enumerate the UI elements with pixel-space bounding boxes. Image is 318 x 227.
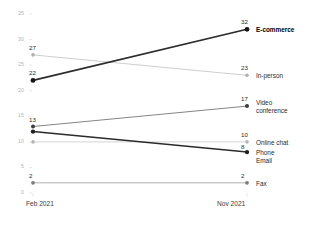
y-tick-marks: [29, 14, 32, 193]
series-label-online-chat: Online chat: [256, 139, 288, 147]
y-tick-label-0: 0: [10, 190, 24, 195]
y-tick-label-25: 25: [10, 62, 24, 67]
value-label-phone-end: 8: [241, 144, 244, 150]
series-label-fax: Fax: [256, 180, 267, 188]
series-label-video-conference: Video conference: [256, 99, 288, 115]
value-label-inperson-start: 27: [29, 45, 36, 51]
y-tick-label-30: 30: [10, 37, 24, 42]
x-axis-label-right: Nov 2021: [217, 201, 245, 208]
value-label-ecommerce-end: 32: [241, 19, 248, 25]
slope-chart: 35 30 25 20 15 10 5 0 Feb 2021 Nov 2021 …: [0, 0, 318, 227]
x-tick-marks: [33, 193, 247, 197]
value-label-onlinechat-end: 10: [241, 132, 248, 138]
series-line-video-conference: [31, 104, 249, 128]
value-label-fax-start: 2: [29, 173, 32, 179]
value-label-video-end: 17: [241, 96, 248, 102]
x-axis-label-left: Feb 2021: [26, 201, 54, 208]
series-label-ecommerce: E-commerce: [256, 26, 294, 34]
value-label-ecommerce-start: 22: [29, 70, 36, 76]
series-label-in-person: In-person: [256, 72, 283, 80]
y-tick-label-10: 10: [10, 139, 24, 144]
value-label-video-start: 13: [29, 117, 36, 123]
y-tick-label-35: 35: [10, 11, 24, 16]
value-label-inperson-end: 23: [241, 65, 248, 71]
value-label-fax-end: 2: [241, 173, 244, 179]
y-tick-label-15: 15: [10, 113, 24, 118]
y-tick-label-20: 20: [10, 88, 24, 93]
series-label-phone-email: Phone Email: [256, 149, 274, 165]
series-line-fax: [31, 181, 249, 185]
y-tick-label-5: 5: [10, 164, 24, 169]
series-line-ecommerce: [31, 27, 250, 83]
